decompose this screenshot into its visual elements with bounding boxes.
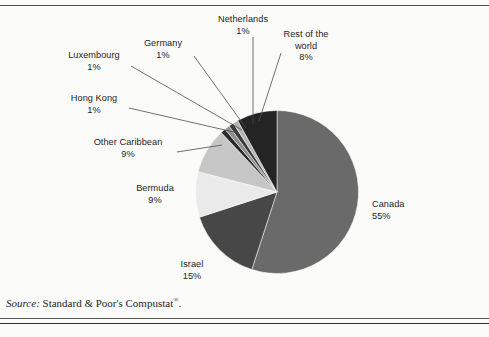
slice-label-israel-title: Israel	[181, 259, 204, 269]
slice-label-rest-of-world: Rest of the world 8%	[268, 29, 344, 64]
slice-label-germany-pct: 1%	[132, 50, 194, 62]
slice-label-other-caribbean-title: Other Caribbean	[94, 137, 163, 147]
pie-chart-figure: Netherlands 1% Rest of the world 8% Germ…	[0, 0, 489, 337]
bottom-rule-upper	[0, 318, 489, 319]
slice-label-luxembourg-title: Luxembourg	[68, 50, 120, 60]
slice-label-luxembourg: Luxembourg 1%	[56, 50, 132, 73]
slice-label-canada: Canada 55%	[372, 199, 432, 222]
slice-label-canada-pct: 55%	[372, 211, 432, 223]
slice-label-germany: Germany 1%	[132, 38, 194, 61]
source-note-text: Standard & Poor's Compustat	[43, 297, 174, 309]
slice-label-bermuda: Bermuda 9%	[124, 183, 186, 206]
slice-label-germany-title: Germany	[144, 38, 182, 48]
slice-label-bermuda-title: Bermuda	[136, 183, 174, 193]
slice-label-canada-title: Canada	[372, 199, 404, 209]
source-note-suffix: .	[179, 297, 182, 309]
pie-graphic	[195, 110, 359, 274]
slice-label-rest-of-world-title2: world	[268, 41, 344, 53]
source-note-prefix: Source:	[6, 297, 40, 309]
slice-label-rest-of-world-title: Rest of the	[284, 29, 329, 39]
slice-label-luxembourg-pct: 1%	[56, 62, 132, 74]
slice-label-rest-of-world-pct: 8%	[268, 52, 344, 64]
slice-label-other-caribbean-pct: 9%	[78, 149, 178, 161]
bottom-rule-lower	[0, 323, 489, 324]
slice-label-bermuda-pct: 9%	[124, 195, 186, 207]
slice-label-israel-pct: 15%	[166, 271, 218, 283]
slice-label-israel: Israel 15%	[166, 259, 218, 282]
slice-label-hong-kong-pct: 1%	[57, 105, 131, 117]
top-rule	[0, 5, 489, 6]
slice-label-hong-kong-title: Hong Kong	[71, 93, 117, 103]
pie-svg	[195, 110, 359, 274]
slice-label-netherlands-title: Netherlands	[218, 14, 268, 24]
source-note: Source: Standard & Poor's Compustat®.	[6, 296, 181, 309]
slice-label-hong-kong: Hong Kong 1%	[57, 93, 131, 116]
slice-label-other-caribbean: Other Caribbean 9%	[78, 137, 178, 160]
